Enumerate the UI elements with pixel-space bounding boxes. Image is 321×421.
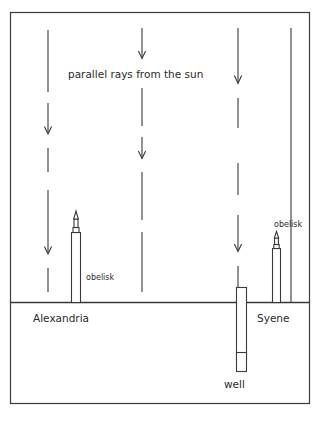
well-label: well [224, 378, 245, 390]
obelisk-label-left: obelisk [86, 273, 115, 282]
sun-rays-label: parallel rays from the sun [68, 68, 203, 80]
city-label-alexandria: Alexandria [33, 312, 89, 324]
well-water-box [237, 353, 247, 372]
obelisk-alexandria-collar [73, 228, 79, 233]
obelisk-syene-upper-shaft [275, 238, 279, 245]
well-shaft [237, 288, 247, 361]
well-shaft-group [237, 288, 247, 372]
obelisk-alexandria-upper-shaft [74, 219, 78, 228]
obelisk-alexandria-shaft [72, 233, 81, 303]
obelisk-syene-shaft [273, 249, 281, 303]
obelisk-label-right: obelisk [274, 220, 303, 229]
city-label-syene: Syene [257, 312, 289, 324]
obelisk-syene-collar [274, 245, 279, 249]
eratosthenes-diagram: parallel rays from the sun obelisk obeli… [0, 0, 321, 421]
diagram-canvas: parallel rays from the sun obelisk obeli… [0, 0, 321, 421]
